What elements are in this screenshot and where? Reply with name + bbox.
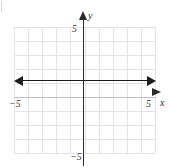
x-axis-line xyxy=(0,97,170,98)
gridline-horizontal xyxy=(14,111,155,112)
gridline-vertical xyxy=(70,27,71,153)
gridline-horizontal xyxy=(14,41,155,42)
gridline-horizontal xyxy=(14,125,155,126)
gridline-vertical xyxy=(56,27,57,153)
gridline-horizontal xyxy=(14,55,155,56)
gridline-vertical xyxy=(113,27,114,153)
gridline-vertical xyxy=(99,27,100,153)
gridline-horizontal xyxy=(14,139,155,140)
plot-line-y-equals-1 xyxy=(22,80,148,82)
scan-edge-artifact xyxy=(1,1,2,12)
gridline-vertical xyxy=(141,27,142,153)
gridline-vertical xyxy=(127,27,128,153)
gridline-horizontal xyxy=(14,83,155,84)
x-axis-arrow-icon xyxy=(152,88,161,96)
gridline-horizontal xyxy=(14,69,155,70)
gridline-horizontal xyxy=(14,153,155,154)
gridline-vertical xyxy=(14,27,15,153)
plot-line-arrow-right-icon xyxy=(147,76,156,86)
x-axis-tick-label-5: 5 xyxy=(146,99,151,109)
grid xyxy=(14,27,155,153)
gridline-vertical xyxy=(85,27,86,153)
y-axis-tick-label-5: 5 xyxy=(72,24,77,34)
x-axis-tick-label-neg5: −5 xyxy=(9,99,21,109)
x-axis-label: x xyxy=(160,98,164,108)
gridline-vertical xyxy=(42,27,43,153)
y-axis-tick-label-neg5: −5 xyxy=(70,152,82,162)
y-axis-arrow-icon xyxy=(79,11,87,20)
gridline-vertical xyxy=(28,27,29,153)
gridline-horizontal xyxy=(14,27,155,28)
y-axis-label: y xyxy=(88,11,92,21)
y-axis-line xyxy=(83,18,84,166)
coordinate-plane-figure: y x 5 −5 −5 5 xyxy=(0,0,170,168)
